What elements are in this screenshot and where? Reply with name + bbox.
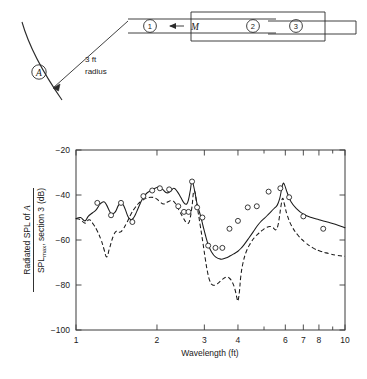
x-axis-tick-labels: 123467810 bbox=[74, 335, 350, 345]
y-axis-denominator-subscript: max bbox=[41, 246, 47, 257]
duct-sections-schematic: A 3 ft radius M 1 2 3 bbox=[22, 12, 356, 100]
data-point bbox=[287, 195, 292, 200]
y-axis-tick-labels: −100−80−60−40−20 bbox=[51, 145, 70, 335]
measured-data-markers bbox=[95, 179, 326, 250]
x-tick-label-4: 4 bbox=[236, 335, 241, 345]
y-tick-label--100: −100 bbox=[51, 325, 70, 335]
x-tick-label-7: 7 bbox=[301, 335, 306, 345]
data-point bbox=[321, 226, 326, 231]
observer-label: A bbox=[35, 68, 42, 78]
flow-arrow-head bbox=[169, 23, 176, 29]
x-tick-label-3: 3 bbox=[202, 335, 207, 345]
data-point bbox=[119, 200, 124, 205]
data-point bbox=[176, 204, 181, 209]
data-point bbox=[266, 189, 271, 194]
figure-svg: A 3 ft radius M 1 2 3 bbox=[0, 0, 367, 379]
x-tick-label-1: 1 bbox=[74, 335, 79, 345]
x-axis-ticks bbox=[76, 150, 345, 330]
plot-frame bbox=[76, 150, 345, 330]
x-tick-label-8: 8 bbox=[317, 335, 322, 345]
data-point bbox=[200, 215, 205, 220]
y-tick-label--60: −60 bbox=[56, 235, 71, 245]
data-point bbox=[227, 226, 232, 231]
mach-number-label: M bbox=[190, 22, 200, 32]
data-point bbox=[195, 205, 200, 210]
data-point bbox=[130, 220, 135, 225]
y-tick-label--40: −40 bbox=[56, 190, 71, 200]
data-point bbox=[141, 194, 146, 199]
y-tick-label--80: −80 bbox=[56, 280, 71, 290]
y-axis-units: (dB) bbox=[36, 188, 46, 204]
y-axis-numerator: Radiated SPL of A bbox=[22, 205, 32, 275]
y-axis-title-group: Radiated SPL of A SPLmax, section 3 (dB) bbox=[22, 188, 47, 292]
data-point bbox=[245, 205, 250, 210]
data-point bbox=[157, 186, 162, 191]
figure-container: A 3 ft radius M 1 2 3 bbox=[0, 0, 367, 379]
data-point bbox=[167, 187, 172, 192]
radius-label-line1: 3 ft bbox=[85, 55, 97, 64]
chart: 123467810 −100−80−60−40−20 Wavelength (f… bbox=[22, 145, 350, 358]
x-tick-label-6: 6 bbox=[283, 335, 288, 345]
y-axis-denominator: SPLmax, section 3 bbox=[36, 207, 47, 273]
section-2-label: 2 bbox=[251, 22, 255, 31]
data-point bbox=[301, 214, 306, 219]
y-axis-numerator-italic: A bbox=[22, 205, 32, 212]
data-point bbox=[206, 243, 211, 248]
x-axis-title: Wavelength (ft) bbox=[181, 348, 238, 358]
section-1-label: 1 bbox=[148, 22, 152, 31]
data-point bbox=[220, 245, 225, 250]
data-point bbox=[235, 218, 240, 223]
x-tick-label-2: 2 bbox=[155, 335, 160, 345]
radius-label-line2: radius bbox=[85, 67, 107, 76]
data-point bbox=[254, 204, 259, 209]
y-axis-ticks bbox=[76, 150, 345, 330]
data-point bbox=[95, 200, 100, 205]
data-point bbox=[278, 186, 283, 191]
section-3-label: 3 bbox=[294, 22, 298, 31]
data-point bbox=[213, 245, 218, 250]
chamber-section2-rect bbox=[191, 12, 325, 41]
y-tick-label--20: −20 bbox=[56, 145, 71, 155]
x-tick-label-10: 10 bbox=[340, 335, 350, 345]
data-point bbox=[109, 213, 114, 218]
data-point bbox=[186, 209, 191, 214]
series-theory-solid bbox=[76, 182, 345, 260]
data-point bbox=[190, 179, 195, 184]
data-point bbox=[150, 188, 155, 193]
